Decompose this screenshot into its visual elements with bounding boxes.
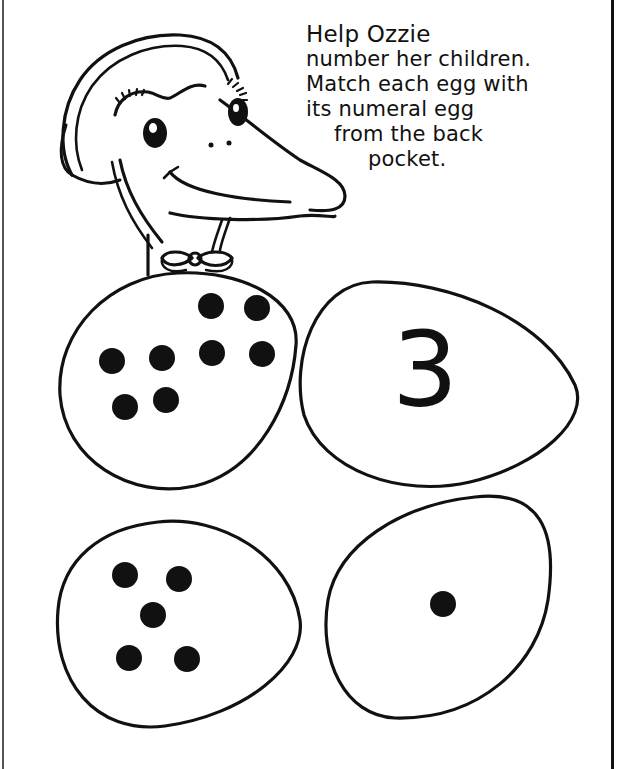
instruction-line: Match each egg with <box>306 72 606 97</box>
dot <box>166 566 192 592</box>
instruction-line: from the back <box>306 122 606 147</box>
dot <box>112 562 138 588</box>
dot <box>249 341 275 367</box>
instructions-text: Help Ozzie number her children. Match ea… <box>306 22 606 172</box>
instruction-line: Help Ozzie <box>306 22 606 47</box>
dot <box>149 345 175 371</box>
dot <box>174 646 200 672</box>
dot <box>112 394 138 420</box>
dot <box>140 602 166 628</box>
dot <box>116 645 142 671</box>
dot <box>198 293 224 319</box>
dot <box>244 295 270 321</box>
instruction-line: its numeral egg <box>306 97 606 122</box>
egg-bottom-left <box>57 521 300 727</box>
instruction-line: number her children. <box>306 47 606 72</box>
duck-with-bonnet-icon <box>61 35 345 275</box>
dot <box>99 348 125 374</box>
egg-numeral: 3 <box>380 318 470 422</box>
instruction-line: pocket. <box>306 147 606 172</box>
dot <box>153 387 179 413</box>
worksheet-page: 3 Help Ozzie number her children. Match … <box>0 0 640 769</box>
dot <box>199 340 225 366</box>
dot <box>430 591 456 617</box>
